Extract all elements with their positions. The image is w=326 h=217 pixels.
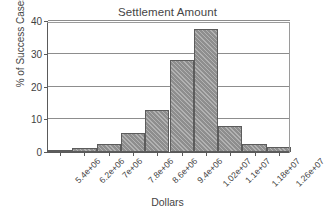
gridline [48, 53, 290, 54]
bar [170, 60, 194, 152]
y-tick-mark [44, 152, 48, 153]
y-tick-label: 10 [31, 114, 42, 125]
x-tick-mark [255, 152, 256, 156]
x-tick-mark [60, 152, 61, 156]
x-tick-mark [230, 152, 231, 156]
x-tick-mark [206, 152, 207, 156]
x-tick-mark [279, 152, 280, 156]
y-tick-label: 30 [31, 48, 42, 59]
y-tick-mark [44, 21, 48, 22]
x-tick-label: 8.6e+06 [171, 156, 200, 185]
x-axis-label: Dollars [45, 196, 290, 208]
bar [218, 126, 242, 152]
bar [145, 110, 169, 152]
y-tick-label: 40 [31, 16, 42, 27]
plot-area: 010203040 [47, 22, 290, 153]
y-tick-mark [44, 119, 48, 120]
x-tick-mark [109, 152, 110, 156]
chart-title: Settlement Amount [45, 6, 290, 18]
gridline [48, 20, 290, 21]
x-tick-label: 5.4e+06 [73, 156, 102, 185]
bar [121, 133, 145, 152]
bar [194, 29, 218, 152]
bar [97, 144, 121, 152]
bar [242, 144, 266, 152]
x-tick-label: 7.8e+06 [146, 156, 175, 185]
y-tick-mark [44, 87, 48, 88]
x-tick-mark [157, 152, 158, 156]
x-tick-mark [133, 152, 134, 156]
y-tick-label: 0 [36, 147, 42, 158]
x-tick-mark [84, 152, 85, 156]
y-tick-label: 20 [31, 81, 42, 92]
y-axis-label: % of Success Cases [15, 0, 26, 107]
y-tick-mark [44, 54, 48, 55]
x-tick-mark [182, 152, 183, 156]
